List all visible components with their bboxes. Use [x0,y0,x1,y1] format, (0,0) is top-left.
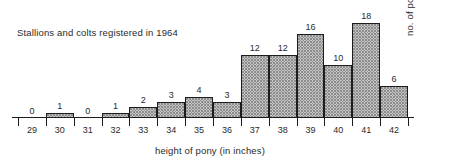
x-axis-tick [408,118,409,126]
bar [241,55,269,118]
bar-value-label: 2 [129,96,157,105]
bar [213,102,241,118]
x-axis-tick [269,118,270,126]
x-axis-tick-label: 40 [324,126,352,135]
bar-value-label: 6 [380,75,408,84]
x-axis-tick-label: 36 [213,126,241,135]
bar-slot: 12 [269,14,297,118]
bar-value-label: 1 [46,102,74,111]
x-axis-title: height of pony (in inches) [0,145,420,156]
x-axis-tick-label: 34 [157,126,185,135]
x-axis-tick-label: 42 [380,126,408,135]
x-axis-tick-label: 38 [269,126,297,135]
bar-value-label: 12 [241,44,269,53]
bar-slot: 0 [18,14,46,118]
bar-value-label: 3 [213,91,241,100]
y-axis-title: no. of ponies [404,0,415,36]
x-axis-tick-label: 35 [185,126,213,135]
bar [324,65,352,118]
x-axis-tick-label: 37 [241,126,269,135]
bar-slot: 12 [241,14,269,118]
bar [352,23,380,118]
bar [269,55,297,118]
x-axis-tick-label: 41 [352,126,380,135]
bar-slot: 4 [185,14,213,118]
bar-slot: 0 [74,14,102,118]
x-axis-tick [352,118,353,126]
bar-slot: 18 [352,14,380,118]
bar-value-label: 4 [185,86,213,95]
bar [297,34,325,118]
bar-slot: 1 [46,14,74,118]
x-axis-tick [185,118,186,126]
x-axis-tick [380,118,381,126]
bar-value-label: 10 [324,54,352,63]
plot-area: 0101234312121610186 [18,14,408,118]
bar-value-label: 16 [297,23,325,32]
x-axis-tick-label: 39 [297,126,325,135]
x-axis-tick [74,118,75,126]
bar-slot: 10 [324,14,352,118]
bar [157,102,185,118]
bar-value-label: 1 [102,102,130,111]
bar [380,86,408,118]
bar-slot: 3 [157,14,185,118]
x-axis-tick-label: 30 [46,126,74,135]
bar-value-label: 0 [18,107,46,116]
x-axis-tick-label: 33 [129,126,157,135]
x-axis-tick [324,118,325,126]
x-axis-tick [297,118,298,126]
bar [185,97,213,118]
bar-value-label: 18 [352,12,380,21]
bar-value-label: 0 [74,107,102,116]
x-axis-tick-label: 29 [18,126,46,135]
x-axis-tick [157,118,158,126]
x-axis-tick [46,118,47,126]
bar-value-label: 12 [269,44,297,53]
bar-slot: 1 [102,14,130,118]
x-axis-tick [129,118,130,126]
bar-slot: 2 [129,14,157,118]
x-axis-tick [18,118,19,126]
histogram-chart: Stallions and colts registered in 1964 0… [0,0,453,168]
x-axis-tick-label: 32 [102,126,130,135]
bar-slot: 16 [297,14,325,118]
x-axis-tick [102,118,103,126]
x-axis-tick [241,118,242,126]
x-axis-tick [213,118,214,126]
bar-value-label: 3 [157,91,185,100]
x-axis-tick-label: 31 [74,126,102,135]
bar-slot: 3 [213,14,241,118]
